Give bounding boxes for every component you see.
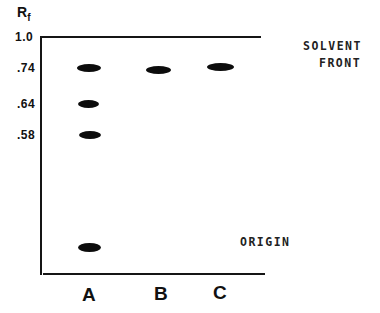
spot-a-074 <box>77 64 101 72</box>
tick-074: .74 <box>17 61 35 75</box>
spot-c-074 <box>207 63 234 71</box>
lane-label-a: A <box>82 284 96 306</box>
tick-058: .58 <box>17 128 35 142</box>
spot-a-058 <box>79 131 101 139</box>
origin-label: ORIGIN <box>240 235 291 249</box>
y-axis-label-subscript: f <box>27 12 30 23</box>
tick-064: .64 <box>17 97 35 111</box>
lane-label-b: B <box>154 283 168 305</box>
spot-a-origin <box>78 243 101 252</box>
baseline-line <box>43 273 265 275</box>
front-label: FRONT <box>319 56 361 70</box>
lane-label-c: C <box>213 282 227 304</box>
y-axis-label-r: R <box>17 4 27 20</box>
y-axis-line <box>40 36 42 275</box>
y-axis-label: Rf <box>17 4 30 20</box>
solvent-front-line <box>41 36 261 38</box>
spot-b-074 <box>146 66 171 74</box>
tick-1-0: 1.0 <box>15 30 33 44</box>
spot-a-064 <box>78 100 99 108</box>
solvent-label: SOLVENT <box>303 39 362 53</box>
